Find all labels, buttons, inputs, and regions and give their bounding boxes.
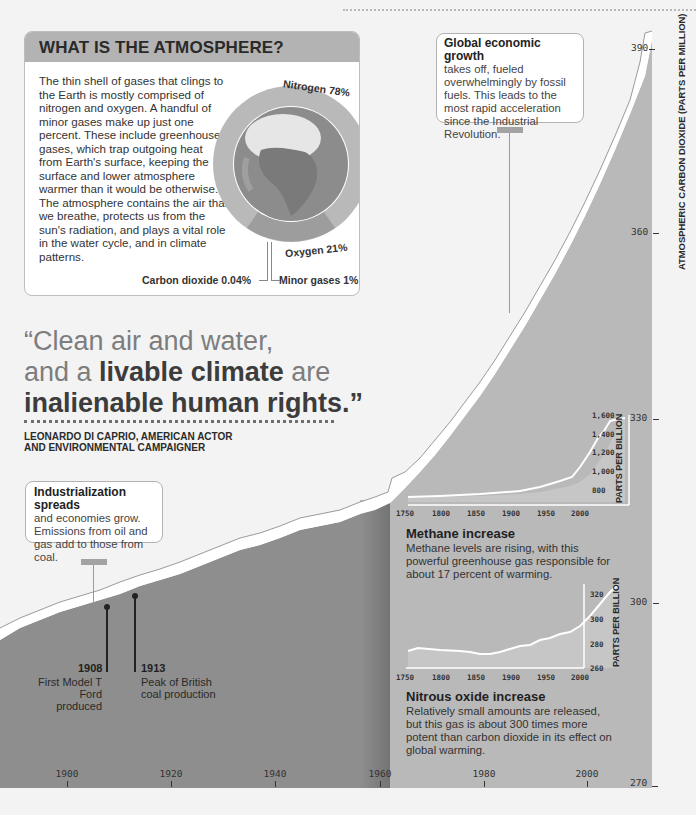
n2o-y-title: PARTS PER BILLION (611, 578, 621, 667)
n2o-xtick: 1800 (426, 673, 456, 682)
methane-ytick: 1,000 (592, 467, 615, 476)
callout-global-growth-tab (497, 127, 523, 133)
callout-industrialization-body: and economies grow. Emissions from oil a… (34, 512, 148, 563)
n2o-xtick: 1850 (461, 673, 491, 682)
event-1908-line (106, 607, 108, 672)
n2o-xtick: 1750 (390, 673, 420, 682)
atmosphere-panel-title: WHAT IS THE ATMOSPHERE? (25, 32, 359, 62)
methane-ytick: 800 (592, 486, 606, 495)
x-tick (587, 781, 588, 787)
y-tick (653, 603, 659, 604)
methane-ytick: 1,400 (592, 430, 615, 439)
callout-global-growth-title: Global economic growth (444, 37, 576, 63)
x-tick-label: 1900 (47, 768, 87, 779)
minor-gases-leader-line (271, 242, 280, 281)
quote-attribution: LEONARDO DI CAPRIO, AMERICAN ACTOR AND E… (24, 431, 324, 453)
event-1913-year: 1913 (141, 662, 165, 674)
co2-leader-line (259, 242, 268, 281)
x-tick (171, 781, 172, 787)
methane-ytick: 1,600 (592, 411, 615, 420)
event-1913-line (134, 596, 136, 672)
quote-line-3: inalienable human rights.” (24, 388, 364, 419)
x-tick-label: 1980 (464, 768, 504, 779)
quote-line-1: “Clean air and water, (24, 326, 364, 357)
y-tick-label: 360 (631, 226, 648, 237)
n2o-ytick: 320 (590, 590, 604, 599)
event-1908-description: First Model TFord produced (35, 676, 102, 712)
callout-industrialization-title: Industrialization spreads (34, 486, 154, 512)
minor-gases-label: Minor gases 1% (279, 274, 358, 286)
n2o-xtick: 2000 (565, 673, 595, 682)
y-tick-label: 330 (630, 412, 647, 423)
n2o-ytick: 260 (590, 664, 604, 673)
methane-xtick: 1900 (496, 509, 526, 518)
x-tick-label: 1940 (255, 768, 295, 779)
y-tick-label: 300 (630, 596, 647, 607)
atmosphere-panel: WHAT IS THE ATMOSPHERE? The thin shell o… (24, 31, 360, 296)
y-tick (653, 233, 659, 234)
methane-y-title: PARTS PER BILLION (614, 414, 624, 503)
quote: “Clean air and water, and a livable clim… (24, 326, 364, 419)
y-tick-label: 390 (631, 42, 648, 53)
n2o-description: Relatively small amounts are released, b… (406, 705, 616, 757)
methane-xtick: 1950 (531, 509, 561, 518)
x-tick-label: 2000 (567, 768, 607, 779)
callout-industrialization-tab (81, 559, 107, 565)
methane-title: Methane increase (406, 526, 515, 541)
carbon-dioxide-label: Carbon dioxide 0.04% (142, 274, 251, 286)
methane-description: Methane levels are rising, with this pow… (406, 542, 616, 581)
y-tick (653, 419, 659, 420)
x-tick-label: 1960 (360, 768, 400, 779)
n2o-ytick: 300 (590, 615, 604, 624)
x-tick (380, 781, 381, 787)
n2o-xtick: 1900 (496, 673, 526, 682)
y-tick (652, 786, 658, 787)
n2o-title: Nitrous oxide increase (406, 689, 545, 704)
x-tick (67, 781, 68, 787)
n2o-ytick: 280 (590, 640, 604, 649)
methane-xtick: 1800 (426, 509, 456, 518)
n2o-xtick: 1950 (531, 673, 561, 682)
x-tick-label: 1920 (151, 768, 191, 779)
methane-xtick: 2000 (565, 509, 595, 518)
atmosphere-ring-diagram (213, 78, 360, 268)
callout-global-growth: Global economic growth takes off, fueled… (436, 33, 584, 123)
callout-global-growth-stem (509, 133, 510, 313)
methane-xtick: 1850 (461, 509, 491, 518)
event-1908-year: 1908 (78, 662, 102, 674)
methane-ytick: 1,200 (592, 448, 615, 457)
quote-dotted-rule (24, 420, 334, 423)
top-dotted-rule (343, 9, 696, 11)
methane-xtick: 1750 (390, 509, 420, 518)
atmosphere-panel-body: The thin shell of gases that clings to t… (39, 74, 229, 263)
y-axis-title: ATMOSPHERIC CARBON DIOXIDE (PARTS PER MI… (676, 10, 690, 270)
x-tick (484, 781, 485, 787)
callout-industrialization-stem (93, 565, 94, 603)
quote-line-2: and a livable climate are (24, 357, 364, 388)
event-1913-description: Peak of Britishcoal production (141, 676, 231, 700)
x-tick (275, 781, 276, 787)
y-tick (649, 49, 655, 50)
callout-industrialization: Industrialization spreads and economies … (25, 481, 163, 543)
y-tick-label: 270 (630, 777, 647, 788)
